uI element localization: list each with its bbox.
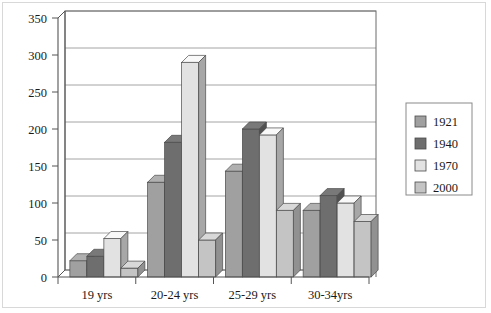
bar-front-face — [70, 261, 87, 277]
bar-front-face — [104, 239, 121, 277]
legend-item[interactable]: 1940 — [415, 137, 458, 151]
x-axis-category-label: 20-24 yrs — [151, 288, 199, 302]
bar-front-face — [354, 222, 371, 278]
legend-item[interactable]: 1970 — [415, 159, 458, 173]
legend-item[interactable]: 2000 — [415, 181, 458, 195]
legend-label: 1940 — [433, 137, 458, 151]
x-axis-category-label: 30-34yrs — [308, 288, 353, 302]
legend-swatch — [415, 138, 426, 149]
bar-group — [70, 232, 145, 277]
bar-front-face — [121, 268, 138, 277]
x-axis-category-label: 25-29 yrs — [229, 288, 277, 302]
y-axis-tick-label: 250 — [28, 86, 47, 100]
bar-front-face — [337, 203, 354, 277]
bar-front-face — [259, 135, 276, 277]
legend-item[interactable]: 1921 — [415, 115, 458, 129]
chart-canvas: 050100150200250300350 19 yrs20-24 yrs25-… — [0, 0, 491, 313]
bar — [276, 203, 300, 277]
y-axis-tick-label: 350 — [28, 12, 47, 26]
bar — [199, 233, 223, 277]
bar-group — [225, 122, 300, 277]
legend-swatch — [415, 160, 426, 171]
legend-swatch — [415, 116, 426, 127]
legend-label: 1921 — [433, 115, 458, 129]
y-axis-tick-label: 150 — [28, 160, 47, 174]
y-axis-bottom-diagonal — [58, 270, 65, 277]
x-axis-tick-labels: 19 yrs20-24 yrs25-29 yrs30-34yrs — [81, 288, 352, 302]
bar-front-face — [276, 210, 293, 277]
bar-front-face — [165, 142, 182, 277]
bar-front-face — [148, 182, 165, 277]
bar-front-face — [225, 171, 242, 277]
y-axis-tick-label: 100 — [28, 197, 47, 211]
y-axis-top-diagonal — [58, 11, 65, 18]
bar-front-face — [87, 256, 104, 277]
bars-group — [70, 55, 378, 277]
bar-side-face — [371, 215, 378, 278]
bar — [354, 215, 378, 278]
bar-side-face — [293, 203, 300, 277]
legend-label: 1970 — [433, 159, 458, 173]
bar-group — [148, 55, 223, 277]
bar-front-face — [320, 196, 337, 277]
y-axis-tick-label: 300 — [28, 49, 47, 63]
bar-chart: 050100150200250300350 19 yrs20-24 yrs25-… — [0, 0, 491, 313]
y-axis-tick-label: 0 — [41, 271, 47, 285]
bar-front-face — [199, 240, 216, 277]
y-axis-tick-label: 200 — [28, 123, 47, 137]
bar-front-face — [182, 62, 199, 277]
bar-front-face — [303, 210, 320, 277]
legend-label: 2000 — [433, 181, 458, 195]
x-axis-category-label: 19 yrs — [81, 288, 112, 302]
legend-swatch — [415, 182, 426, 193]
y-axis-tick-label: 50 — [35, 234, 48, 248]
legend: 1921194019702000 — [406, 103, 472, 195]
bar-front-face — [242, 129, 259, 277]
y-axis-tick-labels: 050100150200250300350 — [28, 12, 47, 285]
bar-group — [303, 189, 378, 277]
bar-side-face — [216, 233, 223, 277]
